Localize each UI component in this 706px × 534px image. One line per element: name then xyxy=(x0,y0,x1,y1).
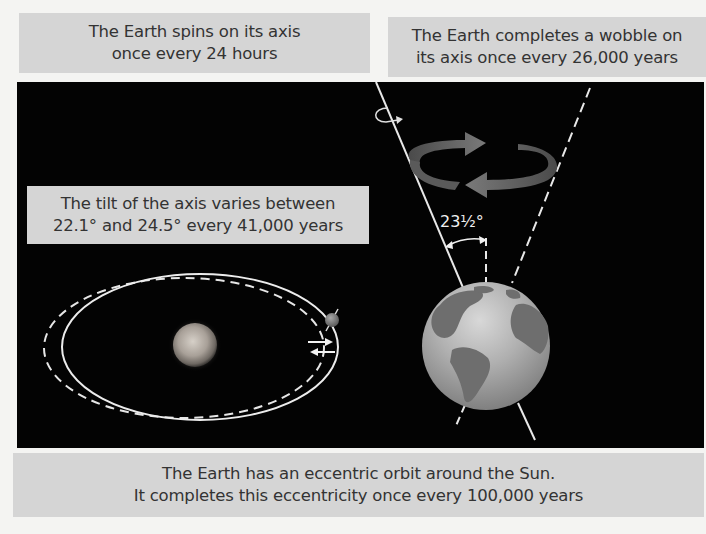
spin-label-line1: The Earth spins on its axis xyxy=(19,21,370,43)
spin-label: The Earth spins on its axis once every 2… xyxy=(19,13,370,73)
orbit-label-line1: The Earth has an eccentric orbit around … xyxy=(13,463,704,485)
tilt-label-line1: The tilt of the axis varies between xyxy=(27,193,369,215)
spin-label-line2: once every 24 hours xyxy=(19,43,370,65)
wobble-label-line2: its axis once every 26,000 years xyxy=(388,47,706,69)
tilt-angle-label: 23½° xyxy=(440,212,484,231)
wobble-arrows-icon xyxy=(409,132,558,198)
orbit-label: The Earth has an eccentric orbit around … xyxy=(13,453,704,517)
earth-globe-icon xyxy=(422,282,550,410)
stretch-arrows-icon xyxy=(308,338,335,356)
tilt-label-line2: 22.1° and 24.5° every 41,000 years xyxy=(27,215,369,237)
orbit-label-line2: It completes this eccentricity once ever… xyxy=(13,485,704,507)
wobble-label-line1: The Earth completes a wobble on xyxy=(388,25,706,47)
tilt-label: The tilt of the axis varies between 22.1… xyxy=(27,186,369,244)
tilt-angle-indicator xyxy=(445,236,487,249)
wobble-label: The Earth completes a wobble on its axis… xyxy=(388,17,706,77)
sun-icon xyxy=(168,318,222,372)
